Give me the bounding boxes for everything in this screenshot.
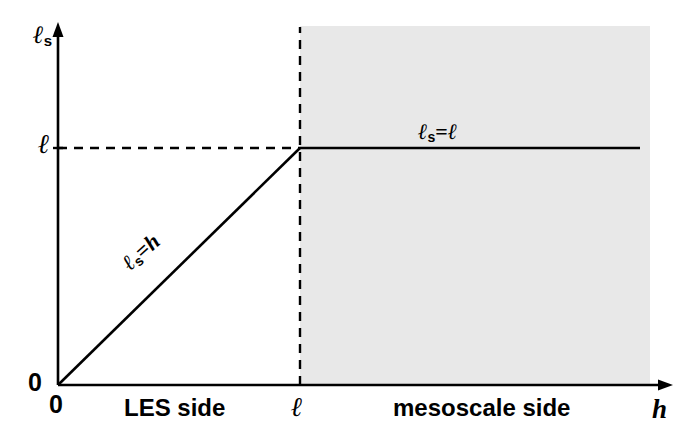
x-axis-tick-ell: ℓ bbox=[291, 394, 303, 421]
plateau-annotation-equals: = bbox=[435, 119, 448, 144]
plateau-annotation-symbol: ℓ bbox=[418, 119, 427, 144]
plateau-annotation-rhs: ℓ bbox=[448, 119, 457, 144]
plateau-curve-annotation: ℓs=ℓ bbox=[418, 121, 457, 144]
y-axis-tick-zero: 0 bbox=[28, 370, 42, 395]
mesoscale-side-caption: mesoscale side bbox=[393, 396, 570, 420]
figure-canvas: ℓs h 0 ℓ 0 ℓ LES side mesoscale side ℓs=… bbox=[0, 0, 692, 440]
y-axis-label-symbol: ℓ bbox=[33, 21, 44, 48]
x-axis-label: h bbox=[652, 396, 667, 423]
y-axis-tick-ell: ℓ bbox=[38, 131, 50, 158]
y-axis-arrow-icon bbox=[53, 22, 64, 37]
mesoscale-shaded-region bbox=[300, 26, 650, 385]
plot-area bbox=[0, 0, 692, 440]
x-axis-arrow-icon bbox=[658, 380, 673, 391]
series-line-ls-equals-h bbox=[58, 148, 300, 385]
y-axis-label-subscript: s bbox=[44, 32, 52, 49]
x-axis-tick-zero: 0 bbox=[49, 392, 63, 417]
les-side-caption: LES side bbox=[124, 396, 225, 420]
y-axis-label: ℓs bbox=[33, 22, 52, 48]
